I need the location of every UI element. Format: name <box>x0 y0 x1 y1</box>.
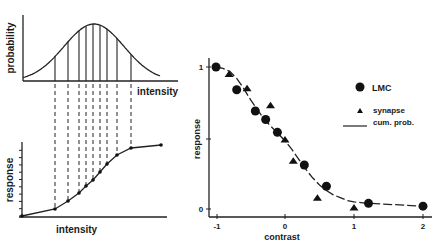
figure: probability intensity response intensity… <box>0 0 437 248</box>
projection-lines <box>55 84 131 209</box>
sigmoid-point <box>159 143 163 147</box>
x-tick-label-2: 2 <box>421 222 426 231</box>
lmc-point <box>419 202 428 211</box>
legend: LMC synapse cum. prob. <box>343 83 414 128</box>
right-xlabel: contrast <box>264 232 300 242</box>
synapse-point <box>313 194 322 201</box>
sigmoid-points <box>20 143 163 218</box>
x-tick-label-neg1: -1 <box>213 222 221 231</box>
probability-plot: probability intensity <box>5 15 179 97</box>
legend-triangle-icon <box>357 108 363 113</box>
response-contrast-plot: 1 0 -1 0 1 2 response contrast LMC synap… <box>192 58 432 242</box>
y-tick-label-0: 0 <box>199 205 204 214</box>
lmc-point <box>232 85 241 94</box>
synapse-points <box>225 71 359 211</box>
lmc-point <box>322 182 331 191</box>
y-tick-label-1: 1 <box>199 63 204 72</box>
sigmoid-point <box>20 214 24 218</box>
resp-xlabel: intensity <box>56 224 98 235</box>
lmc-point <box>300 160 309 169</box>
legend-cum-label: cum. prob. <box>373 118 414 127</box>
resp-ylabel: response <box>4 157 15 202</box>
x-tick-label-0: 0 <box>283 222 288 231</box>
sigmoid-point <box>84 184 88 188</box>
prob-xlabel: intensity <box>137 86 179 97</box>
sigmoid-point <box>115 153 119 157</box>
synapse-point <box>289 157 298 164</box>
legend-circle-icon <box>356 83 365 92</box>
x-tick-label-1: 1 <box>352 222 357 231</box>
lmc-point <box>212 63 221 72</box>
sigmoid-point <box>53 207 57 211</box>
legend-synapse-label: synapse <box>373 106 406 115</box>
lmc-point <box>251 107 260 116</box>
lmc-point <box>261 115 270 124</box>
gaussian-curve <box>23 24 160 78</box>
synapse-point <box>350 204 359 211</box>
sigmoid-point <box>129 146 133 150</box>
sigmoid-point <box>91 178 95 182</box>
lmc-points <box>212 63 428 211</box>
sigmoid-point <box>77 191 81 195</box>
sigmoid-point <box>66 199 70 203</box>
legend-lmc-label: LMC <box>372 83 392 93</box>
right-ylabel: response <box>192 119 202 159</box>
sigmoid-point <box>105 162 109 166</box>
probability-slices <box>55 24 131 81</box>
synapse-point <box>266 102 275 109</box>
lmc-point <box>273 128 282 137</box>
lmc-point <box>364 199 373 208</box>
prob-ylabel: probability <box>5 22 16 74</box>
sigmoid-point <box>98 170 102 174</box>
